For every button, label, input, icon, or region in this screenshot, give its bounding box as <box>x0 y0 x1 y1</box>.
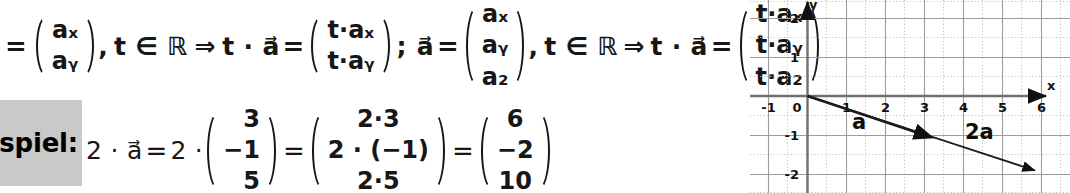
worked-example-equation: 2 · a⃗ = 2 · 3 −1 5 = 2·3 2 · (−1) 2·5 = <box>86 108 554 193</box>
x-tick-label: -1 <box>761 100 775 115</box>
example-equals-1: = <box>143 136 171 166</box>
vector-coordinate-plot: x y -1 0 1 2 3 4 5 6 2 1 -1 -2 a 2a <box>750 0 1070 193</box>
comma-2: , <box>528 32 544 61</box>
right-paren <box>539 110 552 192</box>
column-vector-a-3d: aₓ aᵧ a₂ <box>464 4 527 88</box>
t-element-of-reals-2: t ∈ ℝ <box>544 32 617 61</box>
equals-sign-2: = <box>280 31 308 61</box>
left-paren <box>738 4 751 88</box>
two-times-vector-a: 2 · a⃗ <box>86 136 143 165</box>
equals-sign-1: = <box>0 31 32 61</box>
implies-arrow-2: ⇒ <box>618 32 651 61</box>
vector-entry: 2·5 <box>357 166 400 193</box>
y-tick-label: 1 <box>790 50 799 65</box>
implies-arrow-1: ⇒ <box>187 32 222 61</box>
textbook-page-excerpt: = aₓ aᵧ , t ∈ ℝ ⇒ t · a⃗ = t·aₓ t·aᵧ ; a… <box>0 0 1070 193</box>
column-vector-a-2d: aₓ aᵧ <box>34 13 96 79</box>
x-tick-label: 2 <box>881 100 890 115</box>
left-paren <box>464 4 477 88</box>
column-vector-a-values: 3 −1 5 <box>205 110 278 192</box>
semicolon-separator: ; <box>394 32 416 61</box>
y-axis-label: y <box>809 0 818 12</box>
left-paren <box>205 110 218 192</box>
scalar-two-factor: 2 · <box>170 136 203 165</box>
t-times-vector-a-2: t · a⃗ <box>651 32 708 61</box>
vector-entry: 2 · (−1) <box>328 135 429 166</box>
scalar-multiplication-formula: = aₓ aᵧ , t ∈ ℝ ⇒ t · a⃗ = t·aₓ t·aᵧ ; a… <box>0 2 823 90</box>
left-paren <box>479 110 492 192</box>
comma-1: , <box>98 32 114 61</box>
vector-entries: 2·3 2 · (−1) 2·5 <box>323 110 434 192</box>
right-paren <box>513 4 526 88</box>
equals-sign-3: = <box>434 31 462 61</box>
example-label-text: eispiel: <box>0 128 82 158</box>
example-label-chip: eispiel: <box>0 100 82 186</box>
x-tick-label: 0 <box>792 100 801 115</box>
column-vector-result: 6 −2 10 <box>479 110 552 192</box>
x-axis-label: x <box>1047 78 1056 93</box>
y-tick-label: -2 <box>785 167 799 182</box>
t-element-of-reals-1: t ∈ ℝ <box>114 32 187 61</box>
t-times-vector-a-1: t · a⃗ <box>222 32 279 61</box>
x-tick-label: 4 <box>959 100 968 115</box>
x-tick-label: 6 <box>1037 100 1046 115</box>
column-vector-products: 2·3 2 · (−1) 2·5 <box>310 110 447 192</box>
equals-sign-4: = <box>708 31 736 61</box>
x-tick-label: 3 <box>920 100 929 115</box>
left-paren <box>309 13 322 79</box>
left-paren <box>34 13 47 79</box>
left-paren <box>310 110 323 192</box>
right-paren <box>83 13 96 79</box>
plot-svg: x y -1 0 1 2 3 4 5 6 2 1 -1 -2 a 2a <box>750 0 1070 193</box>
vector-a-label: a <box>852 110 866 134</box>
vector-entry: 2·3 <box>357 104 400 135</box>
example-equals-2: = <box>280 136 308 166</box>
right-paren <box>434 110 447 192</box>
vector-2a-label: 2a <box>965 120 994 144</box>
right-paren <box>379 13 392 79</box>
vector-a-3d-lhs: a⃗ <box>417 32 434 61</box>
column-vector-ta-2d: t·aₓ t·aᵧ <box>309 13 392 79</box>
y-tick-label: 2 <box>790 11 799 26</box>
right-paren <box>265 110 278 192</box>
example-equals-3: = <box>449 136 477 166</box>
axes <box>750 2 1046 193</box>
y-tick-label: -1 <box>785 128 799 143</box>
x-tick-label: 5 <box>998 100 1007 115</box>
vector-entry: 6 <box>507 104 524 135</box>
